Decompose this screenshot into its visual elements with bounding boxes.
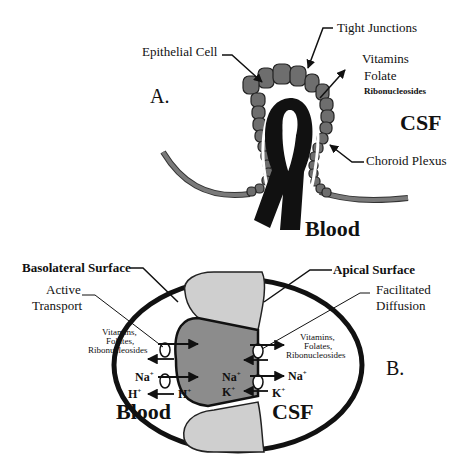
panel-a: A. Epithelial Cell Tight Junctions Vitam… (142, 20, 447, 241)
tight-junctions-label: Tight Junctions (337, 20, 417, 35)
blood-label-b: Blood (116, 399, 171, 424)
choroid-plexus-leader (330, 145, 364, 162)
ribonucleosides-label: Ribonucleosides (364, 86, 427, 96)
csf-label-b: CSF (272, 399, 314, 424)
panel-a-label: A. (150, 85, 169, 107)
panel-b: Basolateral Surface Apical Surface Activ… (22, 260, 431, 452)
transporter-apical-1 (253, 344, 263, 358)
choroid-plexus-diagram: A. Epithelial Cell Tight Junctions Vitam… (0, 0, 469, 469)
vitamins-label: Vitamins (362, 51, 409, 66)
basolateral-surface-label: Basolateral Surface (22, 260, 131, 275)
panel-b-label: B. (386, 357, 404, 379)
active-transport-label-2: Transport (32, 298, 82, 313)
right-substrates-3: Ribonucleosides (286, 350, 346, 360)
active-transport-label-1: Active (46, 282, 81, 297)
csf-label-a: CSF (400, 110, 442, 135)
folate-label: Folate (364, 68, 397, 83)
choroid-plexus-label: Choroid Plexus (366, 153, 447, 168)
blood-label-a: Blood (305, 216, 360, 241)
epithelial-cell-label: Epithelial Cell (142, 44, 218, 59)
transporter-basolateral-1 (160, 343, 170, 357)
facilitated-diffusion-label-1: Facilitated (376, 282, 431, 297)
tight-junctions-leader (308, 28, 333, 68)
transporter-apical-2 (253, 375, 263, 389)
left-substrates-3: Ribonucleosides (88, 345, 148, 355)
facilitated-diffusion-label-2: Diffusion (376, 298, 426, 313)
apical-surface-label: Apical Surface (333, 262, 415, 277)
